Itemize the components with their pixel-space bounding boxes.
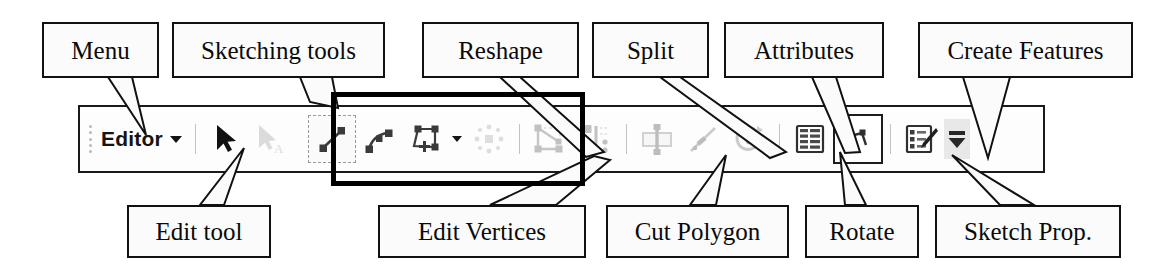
callout-cut-polygon: Cut Polygon [606,205,789,258]
callout-label-split: Split [627,38,674,63]
svg-text:A: A [274,141,284,156]
callout-create-features: Create Features [918,22,1133,78]
editor-menu-button[interactable]: Editor [97,115,188,163]
attribute-table-icon [787,116,833,162]
edit-vertices-tool-button [573,115,619,163]
reshape-feature-tool-button [527,115,573,163]
callout-split: Split [592,22,709,78]
editor-toolbar: Editor A [78,105,1045,173]
rotate-tool-button [726,115,772,163]
callout-label-create-features: Create Features [947,38,1103,63]
toolbar-separator [519,124,520,154]
toolbar-gripper[interactable] [85,122,95,156]
straight-segment-tool-button[interactable] [308,115,356,163]
diagonal-split-line-icon [680,116,726,162]
callout-rotate: Rotate [805,205,919,258]
callout-reshape: Reshape [422,22,579,78]
callout-label-edit-tool: Edit tool [156,219,243,244]
toolbar-separator [195,124,196,154]
callout-menu: Menu [42,22,159,78]
straight-line-two-vertices-icon [308,115,356,163]
vertices-bar-icon [573,116,619,162]
callout-edit-tool: Edit tool [127,205,271,258]
callout-label-rotate: Rotate [829,219,894,244]
sketch-extra-tool-button [466,115,512,163]
toolbar-overflow-button[interactable] [944,115,970,163]
editor-menu-label: Editor [101,127,163,151]
radial-dots-icon [466,116,512,162]
sketch-properties-square-icon [833,114,883,164]
chevron-down-icon [170,136,182,143]
sketch-properties-button[interactable] [833,115,883,163]
list-with-pencil-icon [898,116,944,162]
edit-annotation-tool-button: A [249,115,295,163]
trace-tool-dropdown[interactable] [448,115,466,163]
chevron-down-icon [452,136,462,142]
callout-edit-vertices: Edit Vertices [378,205,586,258]
toolbar-separator [626,124,627,154]
split-tool-button [680,115,726,163]
rectangle-cut-line-icon [634,116,680,162]
callout-attributes: Attributes [724,22,884,78]
callout-label-sketch-prop: Sketch Prop. [964,219,1092,244]
black-arrow-cursor-icon [203,116,249,162]
callout-sketching-tools: Sketching tools [172,22,385,78]
figure-canvas: Editor A [0,0,1171,275]
attributes-button[interactable] [787,115,833,163]
overflow-chevron-down-icon [944,119,970,159]
trace-tool-button[interactable] [402,115,448,163]
arrow-cursor-with-a-icon: A [249,116,295,162]
cut-polygon-tool-button [634,115,680,163]
callout-label-cut-polygon: Cut Polygon [635,219,761,244]
callout-label-attributes: Attributes [754,38,854,63]
arc-two-vertices-icon [356,116,402,162]
callout-label-reshape: Reshape [458,38,543,63]
end-point-arc-tool-button[interactable] [356,115,402,163]
polygon-reshape-icon [527,116,573,162]
callout-label-edit-vertices: Edit Vertices [418,219,546,244]
create-features-button[interactable] [898,115,944,163]
circular-rotate-arrow-icon [726,116,772,162]
edit-tool-button[interactable] [203,115,249,163]
callout-sketch-prop: Sketch Prop. [935,205,1121,258]
callout-label-menu: Menu [71,38,129,63]
callout-label-sketching-tools: Sketching tools [201,38,356,63]
toolbar-separator [890,124,891,154]
toolbar-separator [779,124,780,154]
polygon-with-move-handle-icon [402,116,448,162]
